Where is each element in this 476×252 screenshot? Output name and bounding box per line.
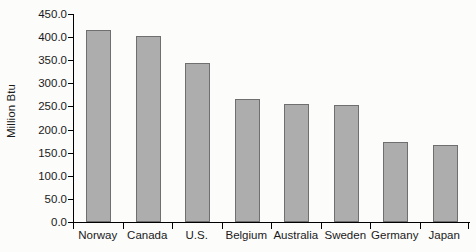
x-axis-tick-label: Canada: [127, 229, 167, 241]
x-axis-tick-label: Germany: [371, 229, 418, 241]
x-axis-tick-mark: [321, 222, 322, 229]
y-axis-tick-mark: [68, 106, 73, 107]
y-axis-tick-label: 350.0: [38, 54, 67, 66]
y-axis-tick-label-group: 450.0400.0350.0300.0250.0200.0150.0100.0…: [22, 0, 73, 252]
x-axis-tick-label: Belgium: [225, 229, 267, 241]
y-axis-tick-mark: [68, 199, 73, 200]
x-axis-tick-mark: [420, 222, 421, 229]
y-axis-tick-label: 200.0: [38, 124, 67, 136]
bar-series: [74, 14, 470, 222]
bar: [185, 63, 210, 222]
y-axis-tick-mark: [68, 83, 73, 84]
x-axis-tick-label: Japan: [429, 229, 460, 241]
y-axis-tick-mark: [68, 222, 73, 223]
x-axis-tick-label: Norway: [78, 229, 117, 241]
bar: [284, 104, 309, 222]
y-axis-tick-label: 0.0: [51, 216, 67, 228]
y-axis-title: Million Btu: [0, 0, 22, 222]
x-axis-tick-mark: [370, 222, 371, 229]
y-axis-title-label: Million Btu: [5, 84, 17, 138]
x-axis-tick-label: Sweden: [324, 229, 366, 241]
y-axis-tick-mark: [68, 14, 73, 15]
bar: [334, 105, 359, 222]
y-axis-tick-mark: [68, 153, 73, 154]
x-axis-tick-mark: [73, 222, 74, 229]
y-axis-tick-label: 50.0: [45, 193, 67, 205]
y-axis-tick-label: 400.0: [38, 31, 67, 43]
y-axis-tick-label: 150.0: [38, 147, 67, 159]
x-axis-tick-mark: [271, 222, 272, 229]
x-axis-tick-label: U.S.: [186, 229, 208, 241]
x-axis-tick-group: [73, 222, 469, 229]
plot-area: [73, 14, 470, 223]
y-axis-tick-mark: [68, 37, 73, 38]
y-axis-tick-label: 250.0: [38, 100, 67, 112]
x-axis-tick-label-group: NorwayCanadaU.S.BelgiumAustraliaSwedenGe…: [73, 229, 469, 249]
y-axis-tick-mark: [68, 60, 73, 61]
x-axis-tick-mark: [468, 222, 469, 229]
y-axis-tick-mark: [68, 176, 73, 177]
y-axis-tick-label: 450.0: [38, 8, 67, 20]
y-axis-tick-mark: [68, 130, 73, 131]
bar: [383, 142, 408, 222]
bar: [86, 30, 111, 222]
x-axis-tick-label: Australia: [273, 229, 318, 241]
bar: [433, 145, 458, 222]
x-axis-tick-mark: [222, 222, 223, 229]
y-axis-tick-label: 300.0: [38, 77, 67, 89]
y-axis-tick-label: 100.0: [38, 170, 67, 182]
bar: [235, 99, 260, 222]
x-axis-tick-mark: [123, 222, 124, 229]
x-axis-tick-mark: [172, 222, 173, 229]
bar: [136, 36, 161, 222]
bar-chart: Million Btu 450.0400.0350.0300.0250.0200…: [0, 0, 476, 252]
